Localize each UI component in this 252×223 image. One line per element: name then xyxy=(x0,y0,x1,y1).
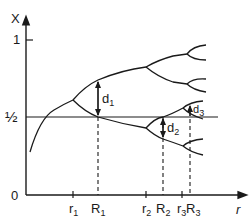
x-tick-r3: r3 xyxy=(177,202,186,215)
annotation-d1: d1 xyxy=(102,92,114,105)
annotation-d3: d3 xyxy=(193,104,204,115)
y-tick-1: 1 xyxy=(13,33,20,46)
y-tick-0: 0 xyxy=(11,189,18,202)
x-axis-label: r xyxy=(236,203,240,216)
x-axis xyxy=(26,191,243,198)
annotation-d2: d2 xyxy=(167,121,179,134)
diagram-graphics xyxy=(0,0,252,223)
x-tick-R3: R3 xyxy=(186,202,200,215)
x-tick-R1: R1 xyxy=(91,202,105,215)
y-axis-label: X xyxy=(11,12,20,25)
x-tick-r1: r1 xyxy=(69,202,78,215)
bifurcation-diagram: X r 1 ½ 0 r1 R1 r2 R2 r3 R3 d1 d2 d3 xyxy=(0,0,252,223)
x-tick-R2: R2 xyxy=(156,202,170,215)
y-axis xyxy=(26,20,33,195)
y-tick-half: ½ xyxy=(5,109,18,124)
bifurcation-curve xyxy=(30,45,206,155)
x-tick-r2: r2 xyxy=(142,202,151,215)
